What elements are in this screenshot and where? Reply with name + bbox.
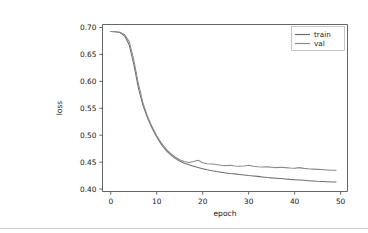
y-tick-label: 0.70 [80, 23, 97, 32]
x-tick-label: 20 [198, 197, 208, 206]
output-divider [0, 228, 368, 229]
x-tick-label: 30 [244, 197, 254, 206]
x-tick-label: 0 [108, 197, 113, 206]
y-tick-label: 0.60 [80, 77, 97, 86]
y-tick-label: 0.40 [80, 185, 97, 194]
y-tick-label: 0.50 [80, 131, 97, 140]
chart-svg: 01020304050 0.400.450.500.550.600.650.70… [0, 0, 368, 233]
chart-legend: train val [292, 27, 345, 51]
notebook-output-cell: 01020304050 0.400.450.500.550.600.650.70… [0, 0, 368, 233]
y-tick-label: 0.45 [80, 158, 97, 167]
x-tick-label: 50 [336, 197, 346, 206]
y-axis-title: loss [55, 101, 64, 116]
x-tick-label: 40 [290, 197, 300, 206]
y-tick-label: 0.55 [80, 104, 97, 113]
y-tick-label: 0.65 [80, 50, 97, 59]
x-axis-title: epoch [213, 209, 236, 218]
legend-label-train: train [314, 30, 331, 39]
loss-curve-chart: 01020304050 0.400.450.500.550.600.650.70… [0, 0, 368, 233]
x-tick-label: 10 [152, 197, 162, 206]
legend-label-val: val [314, 39, 325, 48]
